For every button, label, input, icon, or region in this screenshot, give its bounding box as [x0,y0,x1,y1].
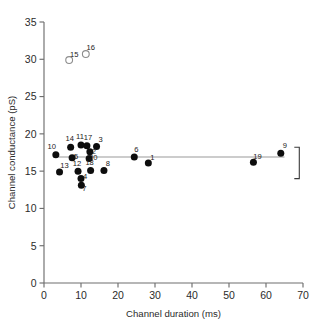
y-tick-label: 5 [31,240,37,252]
x-tick-label: 20 [112,289,124,301]
data-point-17 [83,142,90,149]
axis-titles-group: Channel duration (ms)Channel conductance… [6,96,221,319]
x-tick-label: 70 [297,289,309,301]
y-tick-label: 0 [31,277,37,289]
scatter-plot-figure: 05101520253035010203040506070 1013145111… [0,0,319,329]
data-point-label-3: 3 [98,135,102,144]
data-point-9 [277,150,284,157]
y-tick-label: 30 [25,53,37,65]
data-point-label-12: 12 [73,159,81,168]
x-tick-label: 0 [41,289,47,301]
data-point-label-15: 15 [70,50,78,59]
data-point-label-17: 17 [84,133,92,142]
data-point-12 [75,168,82,175]
x-tick-label: 30 [149,289,161,301]
annotation-group [294,147,299,178]
point-labels-group: 1013145111723201247188611991516 [48,43,287,193]
data-point-10 [52,151,59,158]
x-axis-title: Channel duration (ms) [126,308,221,319]
data-point-label-7: 7 [82,184,86,193]
x-tick-label: 40 [186,289,198,301]
data-point-label-9: 9 [283,141,287,150]
data-point-label-10: 10 [48,142,56,151]
data-point-18 [87,167,94,174]
data-point-14 [67,144,74,151]
y-tick-label: 15 [25,165,37,177]
data-point-label-18: 18 [85,158,93,167]
data-point-label-4: 4 [83,172,87,181]
right-bracket-annotation [294,147,299,178]
data-point-6 [131,153,138,160]
y-tick-label: 20 [25,128,37,140]
x-tick-label: 60 [260,289,272,301]
data-point-label-6: 6 [134,145,138,154]
data-point-label-14: 14 [65,134,73,143]
y-tick-label: 25 [25,90,37,102]
data-points-group [52,51,284,189]
data-point-label-16: 16 [87,43,95,52]
x-tick-label: 50 [223,289,235,301]
y-axis-title: Channel conductance (pS) [6,96,17,210]
plot-canvas: 05101520253035010203040506070 1013145111… [0,0,319,329]
data-point-label-1: 1 [150,153,154,162]
data-point-label-8: 8 [106,159,110,168]
data-point-label-19: 19 [253,152,261,161]
data-point-label-13: 13 [60,161,68,170]
y-tick-label: 35 [25,16,37,28]
y-tick-label: 10 [25,202,37,214]
x-tick-label: 10 [75,289,87,301]
data-point-11 [78,142,85,149]
